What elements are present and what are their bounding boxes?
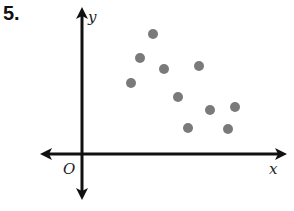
data-point bbox=[126, 78, 136, 88]
data-point bbox=[183, 123, 193, 133]
x-axis-label: x bbox=[269, 160, 277, 178]
data-point bbox=[230, 102, 240, 112]
data-point bbox=[223, 124, 233, 134]
data-point bbox=[159, 64, 169, 74]
y-axis-label: y bbox=[88, 8, 96, 26]
data-point bbox=[135, 53, 145, 63]
data-point bbox=[148, 29, 158, 39]
origin-label: O bbox=[63, 160, 75, 178]
data-points bbox=[126, 29, 240, 134]
data-point bbox=[173, 92, 183, 102]
data-point bbox=[205, 105, 215, 115]
scatter-plot bbox=[0, 0, 294, 211]
data-point bbox=[194, 61, 204, 71]
